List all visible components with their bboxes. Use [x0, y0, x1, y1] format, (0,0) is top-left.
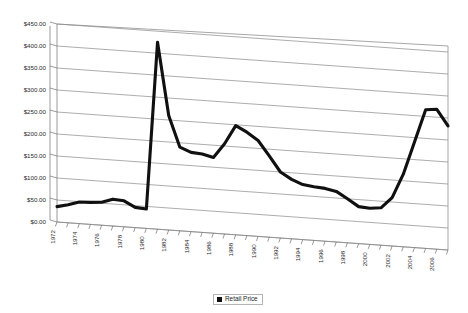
gridline-150	[57, 156, 448, 184]
y-tick-50	[50, 198, 57, 200]
y-axis-label-350: $350.00	[24, 64, 47, 71]
x-axis-label-1974: 1974	[71, 231, 78, 245]
x-tick-1979	[134, 228, 136, 233]
y-axis-label-300: $300.00	[24, 86, 47, 93]
x-tick-2003	[402, 247, 404, 252]
plot-walls	[50, 24, 448, 250]
x-axis-label-1980: 1980	[138, 236, 145, 250]
x-axis-label-1984: 1984	[183, 239, 190, 253]
wall-top-edge	[57, 24, 448, 46]
x-tick-1996	[324, 241, 326, 246]
y-tick-0	[50, 220, 57, 222]
gridline-400	[57, 46, 448, 74]
x-tick-1998	[346, 243, 348, 248]
y-axis-label-250: $250.00	[24, 108, 47, 115]
y-axis-label-200: $200.00	[24, 130, 47, 137]
y-tick-200	[50, 132, 57, 134]
x-axis-labels: 1972197419761978198019821984198619881990…	[49, 229, 436, 271]
y-tick-300	[50, 88, 57, 90]
y-axis-label-50: $50.00	[27, 196, 46, 203]
x-tick-2006	[435, 249, 437, 254]
x-axis-label-1988: 1988	[227, 242, 234, 256]
y-tick-400	[50, 44, 57, 46]
legend-label-retail-price: Retail Price	[225, 296, 258, 302]
x-tick-2000	[368, 244, 370, 249]
x-tick-1997	[335, 242, 337, 247]
gridline-300	[57, 90, 448, 118]
line-chart: $0.00$50.00$100.00$150.00$200.00$250.00$…	[0, 0, 468, 313]
x-tick-1984	[189, 232, 191, 237]
x-tick-2004	[413, 248, 415, 253]
x-tick-2007	[446, 250, 448, 255]
gridline-350	[57, 68, 448, 96]
x-tick-2005	[424, 248, 426, 253]
x-tick-2001	[379, 245, 381, 250]
x-tick-1990	[256, 236, 258, 241]
x-tick-1974	[78, 224, 80, 229]
x-tick-1981	[156, 229, 158, 234]
y-axis-label-400: $400.00	[24, 42, 47, 49]
x-axis-label-2006: 2006	[428, 257, 435, 271]
x-tick-1983	[178, 231, 180, 236]
x-tick-1986	[212, 233, 214, 238]
x-tick-2002	[391, 246, 393, 251]
x-tick-1980	[145, 228, 147, 233]
series-line-retail-price[interactable]	[57, 42, 448, 209]
x-axis-label-1976: 1976	[93, 233, 100, 247]
data-series-group	[57, 42, 448, 209]
x-tick-1975	[89, 224, 91, 229]
legend-swatch-retail-price	[217, 297, 222, 302]
x-tick-1992	[279, 238, 281, 243]
x-axis-label-1972: 1972	[49, 229, 56, 243]
y-axis-label-0: $0.00	[31, 218, 47, 225]
x-tick-1993	[290, 239, 292, 244]
x-axis-label-1982: 1982	[160, 237, 167, 251]
x-tick-1976	[100, 225, 102, 230]
y-tick-150	[50, 154, 57, 156]
x-tick-1994	[301, 240, 303, 245]
gridline-450	[57, 24, 448, 52]
x-tick-1995	[312, 240, 314, 245]
x-axis-label-1994: 1994	[294, 247, 301, 261]
x-tick-1999	[357, 244, 359, 249]
x-tick-1987	[223, 234, 225, 239]
x-tick-1982	[167, 230, 169, 235]
y-axis-ticks	[50, 22, 57, 222]
x-tick-1985	[201, 232, 203, 237]
gridline-50	[57, 200, 448, 228]
y-axis-label-100: $100.00	[24, 174, 47, 181]
y-axis-label-450: $450.00	[24, 20, 47, 27]
chart-container: $0.00$50.00$100.00$150.00$200.00$250.00$…	[0, 0, 468, 313]
y-tick-350	[50, 66, 57, 68]
y-tick-250	[50, 110, 57, 112]
y-tick-100	[50, 176, 57, 178]
y-axis-label-150: $150.00	[24, 152, 47, 159]
x-tick-1988	[234, 235, 236, 240]
x-axis-label-2000: 2000	[361, 252, 368, 266]
x-tick-1978	[122, 227, 124, 232]
x-tick-1991	[268, 237, 270, 242]
y-axis-labels: $0.00$50.00$100.00$150.00$200.00$250.00$…	[24, 20, 47, 225]
x-tick-1972	[55, 222, 57, 227]
x-tick-1977	[111, 226, 113, 231]
x-axis-label-1990: 1990	[250, 244, 257, 258]
chart-legend[interactable]: Retail Price	[213, 294, 263, 305]
x-axis-label-1998: 1998	[339, 250, 346, 264]
x-tick-1973	[67, 223, 69, 228]
x-axis-label-2002: 2002	[384, 253, 391, 267]
x-axis-label-1986: 1986	[205, 241, 212, 255]
x-axis-label-1996: 1996	[317, 249, 324, 263]
x-axis-label-2004: 2004	[406, 255, 413, 269]
x-tick-1989	[245, 236, 247, 241]
x-axis-label-1992: 1992	[272, 245, 279, 259]
x-axis-label-1978: 1978	[116, 234, 123, 248]
y-tick-450	[50, 22, 57, 24]
